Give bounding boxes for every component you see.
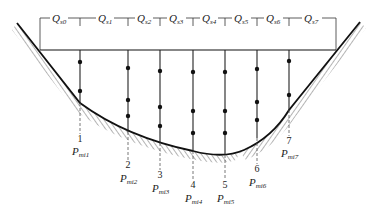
vertical-number-6: 6 xyxy=(255,163,260,174)
vertical-number-5: 5 xyxy=(223,179,228,190)
riverbed-hatching xyxy=(12,23,240,163)
p-label-mi6: Pmi6 xyxy=(248,176,267,190)
p-label-mi5: Pmi5 xyxy=(216,192,235,206)
vertical-number-4: 4 xyxy=(191,179,196,190)
partial-discharge-bracket xyxy=(40,18,336,50)
q-label-s3: Qs3 xyxy=(169,12,184,26)
vertical-number-1: 1 xyxy=(78,133,83,144)
vertical-number-3: 3 xyxy=(158,169,163,180)
q-label-s1: Qs1 xyxy=(98,12,112,26)
river-cross-section-diagram: Qs0 Qs1 Qs2 Qs3 Qs4 Qs5 Qs6 Qs7 xyxy=(0,0,375,220)
vertical-number-2: 2 xyxy=(126,159,131,170)
right-bank-hatching xyxy=(240,22,366,160)
p-label-mi4: Pmi4 xyxy=(184,192,203,206)
p-label-mi3: Pmi3 xyxy=(151,182,170,196)
q-label-s5: Qs5 xyxy=(234,12,249,26)
vertical-number-7: 7 xyxy=(287,135,292,146)
p-label-mi2: Pmi2 xyxy=(119,172,138,186)
p-label-mi7: Pmi7 xyxy=(280,147,299,161)
p-label-mi1: Pmi1 xyxy=(71,145,89,159)
q-label-s0: Qs0 xyxy=(52,12,67,26)
q-label-s4: Qs4 xyxy=(202,12,217,26)
q-label-s2: Qs2 xyxy=(137,12,152,26)
q-label-s6: Qs6 xyxy=(266,12,281,26)
q-label-s7: Qs7 xyxy=(304,12,319,26)
partial-discharge-labels: Qs0 Qs1 Qs2 Qs3 Qs4 Qs5 Qs6 Qs7 xyxy=(52,12,319,26)
